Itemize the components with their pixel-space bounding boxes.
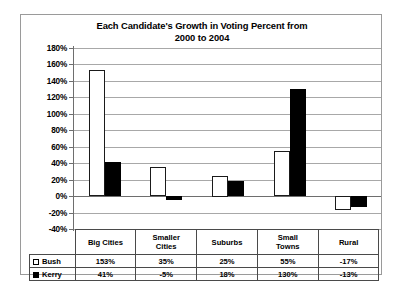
y-axis-tick xyxy=(69,81,74,82)
y-axis-label: 60% xyxy=(51,143,67,152)
bar-kerry-small-towns xyxy=(290,89,306,196)
y-axis-label: 80% xyxy=(51,126,67,135)
table-cell: 130% xyxy=(257,268,318,281)
column-header-smaller-cities: Smaller Cities xyxy=(136,230,197,255)
y-axis-label: 0% xyxy=(56,192,67,201)
table-row-kerry: Kerry 41% -5% 18% 130% -13% xyxy=(30,268,379,281)
legend-item-bush: Bush xyxy=(30,255,76,268)
table-cell: 18% xyxy=(197,268,258,281)
y-axis-tick xyxy=(69,229,74,230)
table-header-row: Big Cities Smaller Cities Suburbs Small … xyxy=(30,230,379,255)
y-axis-tick xyxy=(69,130,74,131)
gridline xyxy=(73,130,381,131)
gridline xyxy=(73,147,381,148)
bar-kerry-rural xyxy=(351,196,367,207)
y-axis-label: 120% xyxy=(47,93,67,102)
y-axis-tick xyxy=(69,163,74,164)
gridline xyxy=(73,114,381,115)
plot-area xyxy=(73,48,381,229)
y-axis-label: -40% xyxy=(49,225,67,234)
column-header-line: Cities xyxy=(136,242,196,251)
gridline xyxy=(73,97,381,98)
table-cell: 25% xyxy=(197,255,258,268)
table-row-bush: Bush 153% 35% 25% 55% -17% xyxy=(30,255,379,268)
legend-swatch-kerry-icon xyxy=(33,272,39,278)
legend-item-kerry: Kerry xyxy=(30,268,76,281)
bar-kerry-suburbs xyxy=(228,181,244,196)
bar-bush-rural xyxy=(335,196,351,210)
legend-label-bush: Bush xyxy=(42,257,61,266)
y-axis-tick xyxy=(69,213,74,214)
legend-swatch-bush-icon xyxy=(33,259,39,265)
y-axis-tick xyxy=(69,196,74,197)
y-axis-tick xyxy=(69,48,74,49)
column-header-line: Towns xyxy=(258,242,318,251)
table-cell: -5% xyxy=(136,268,197,281)
legend-label-kerry: Kerry xyxy=(42,270,62,279)
bar-bush-big-cities xyxy=(89,70,105,196)
y-axis-tick xyxy=(69,64,74,65)
table-cell: 35% xyxy=(136,255,197,268)
column-header-line: Rural xyxy=(319,238,379,247)
bar-bush-suburbs xyxy=(212,176,228,197)
y-axis-label: 180% xyxy=(47,44,67,53)
table-cell: 41% xyxy=(75,268,136,281)
bar-bush-small-towns xyxy=(274,151,290,196)
column-header-line: Big Cities xyxy=(76,238,136,247)
y-axis-label: 40% xyxy=(51,159,67,168)
column-header-line: Suburbs xyxy=(197,238,257,247)
chart-frame: Each Candidate's Growth in Voting Percen… xyxy=(20,14,382,275)
gridline xyxy=(73,64,381,65)
column-header-line: Smaller xyxy=(136,233,196,242)
y-axis-label: 20% xyxy=(51,176,67,185)
chart-title-line-2: 2000 to 2004 xyxy=(175,32,230,43)
column-header-rural: Rural xyxy=(318,230,379,255)
chart-title-line-1: Each Candidate's Growth in Voting Percen… xyxy=(96,20,307,31)
gridline xyxy=(73,81,381,82)
data-table: Big Cities Smaller Cities Suburbs Small … xyxy=(29,229,379,281)
bar-bush-smaller-cities xyxy=(150,167,166,196)
bar-kerry-big-cities xyxy=(105,162,121,196)
y-axis-label: -20% xyxy=(49,209,67,218)
column-header-suburbs: Suburbs xyxy=(197,230,258,255)
table-cell: -13% xyxy=(318,268,379,281)
table-cell: 153% xyxy=(75,255,136,268)
y-axis-label: 160% xyxy=(47,60,67,69)
y-axis-tick xyxy=(69,114,74,115)
y-axis-label: 140% xyxy=(47,77,67,86)
bar-kerry-smaller-cities xyxy=(166,196,182,200)
table-cell: -17% xyxy=(318,255,379,268)
column-header-line: Small xyxy=(258,233,318,242)
column-header-small-towns: Small Towns xyxy=(257,230,318,255)
chart-title: Each Candidate's Growth in Voting Percen… xyxy=(39,20,365,43)
y-axis-tick xyxy=(69,147,74,148)
gridline xyxy=(73,48,381,49)
gridline xyxy=(73,213,381,214)
y-axis-tick xyxy=(69,180,74,181)
y-axis-label: 100% xyxy=(47,110,67,119)
table-cell: 55% xyxy=(257,255,318,268)
column-header-big-cities: Big Cities xyxy=(75,230,136,255)
y-axis-tick xyxy=(69,97,74,98)
